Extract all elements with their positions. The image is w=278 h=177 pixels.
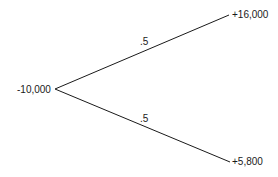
branch-upper-line [55, 15, 229, 89]
upper-probability-label: .5 [140, 36, 148, 48]
root-value-label: -10,000 [17, 84, 51, 96]
lower-probability-label: .5 [140, 113, 148, 125]
branch-lower-line [55, 89, 230, 162]
lower-outcome-label: +5,800 [232, 156, 263, 168]
upper-outcome-label: +16,000 [232, 9, 268, 21]
